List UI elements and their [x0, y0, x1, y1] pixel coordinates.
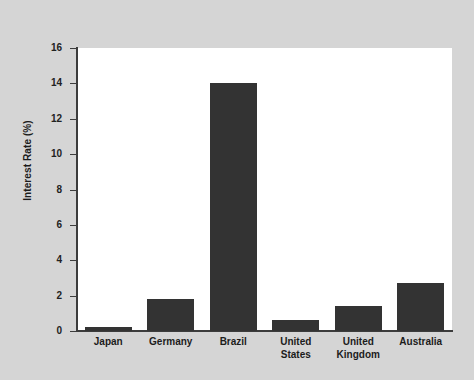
y-axis-tick-mark: [70, 331, 77, 332]
x-axis-tick-labels: JapanGermanyBrazilUnitedStatesUnitedKing…: [77, 336, 452, 376]
bar: [147, 299, 194, 331]
y-axis-tick-mark: [70, 296, 77, 297]
y-axis-tick-mark: [70, 48, 77, 49]
y-axis-tick-label: 2: [22, 291, 62, 301]
x-axis-tick-label: Germany: [140, 336, 203, 349]
bar: [335, 306, 382, 331]
bar-slot: [210, 48, 257, 331]
y-axis-tick-label: 14: [22, 78, 62, 88]
bar-slot: [272, 48, 319, 331]
y-axis-title: Interest Rate (%): [22, 101, 33, 221]
y-axis-tick-mark: [70, 190, 77, 191]
bars-group: [77, 48, 452, 331]
x-axis-tick-label: UnitedKingdom: [327, 336, 390, 361]
y-axis-tick-label: 16: [22, 43, 62, 53]
y-axis-tick-mark: [70, 119, 77, 120]
bar: [397, 283, 444, 331]
bar-slot: [397, 48, 444, 331]
y-axis-tick-label: 6: [22, 220, 62, 230]
y-axis-tick-label: 0: [22, 326, 62, 336]
bar-chart-figure: 0246810121416 Interest Rate (%) JapanGer…: [0, 0, 474, 380]
y-axis-tick-mark: [70, 260, 77, 261]
bar: [210, 83, 257, 331]
bar-slot: [85, 48, 132, 331]
bar-slot: [335, 48, 382, 331]
x-axis-tick-label: Australia: [390, 336, 453, 349]
bar: [85, 327, 132, 331]
bar: [272, 320, 319, 331]
y-axis-tick-mark: [70, 225, 77, 226]
y-axis-tick-label: 4: [22, 255, 62, 265]
y-axis-tick-mark: [70, 83, 77, 84]
x-axis-tick-label: UnitedStates: [265, 336, 328, 361]
x-axis-tick-label: Japan: [77, 336, 140, 349]
y-axis-tick-mark: [70, 154, 77, 155]
bar-slot: [147, 48, 194, 331]
x-axis-tick-label: Brazil: [202, 336, 265, 349]
